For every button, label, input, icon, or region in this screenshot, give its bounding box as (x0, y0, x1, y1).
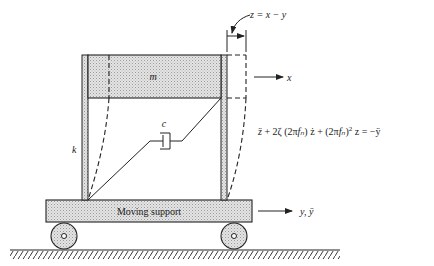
deflected-left-column (88, 98, 109, 200)
dim-leader (232, 15, 250, 33)
ground (10, 250, 340, 259)
equation-of-motion: z̈ + 2ζ (2πfₙ) ż + (2πfₙ)2 z = −ÿ (257, 125, 381, 138)
ground-hatching (10, 251, 340, 259)
damper-label: c (162, 118, 167, 129)
diagram-canvas: Moving support y, ÿ m k c x z = x − y (0, 0, 434, 266)
x-axis-label: x (286, 72, 292, 83)
eq-term1: + 2ζ (2π (262, 126, 298, 138)
y-axis-label: y, ÿ (299, 206, 314, 217)
eq-term2: ) ż + (2π (304, 126, 338, 138)
left-column-spring (82, 55, 88, 200)
deflected-right-column (227, 98, 246, 200)
eq-rhs: z = −ÿ (352, 126, 380, 137)
damper (88, 98, 221, 200)
right-column-spring (221, 55, 227, 200)
relative-displacement-dimension (227, 15, 250, 52)
mass-label: m (149, 71, 156, 82)
damper-rod-lower (88, 141, 150, 200)
damper-rod-upper (182, 98, 221, 141)
support-label: Moving support (117, 206, 181, 217)
relative-displacement-label: z = x − y (249, 9, 287, 20)
spring-label: k (72, 144, 77, 155)
base-excitation-diagram: Moving support y, ÿ m k c x z = x − y (0, 0, 434, 266)
wheel-left (51, 223, 77, 249)
wheel-right (221, 223, 247, 249)
